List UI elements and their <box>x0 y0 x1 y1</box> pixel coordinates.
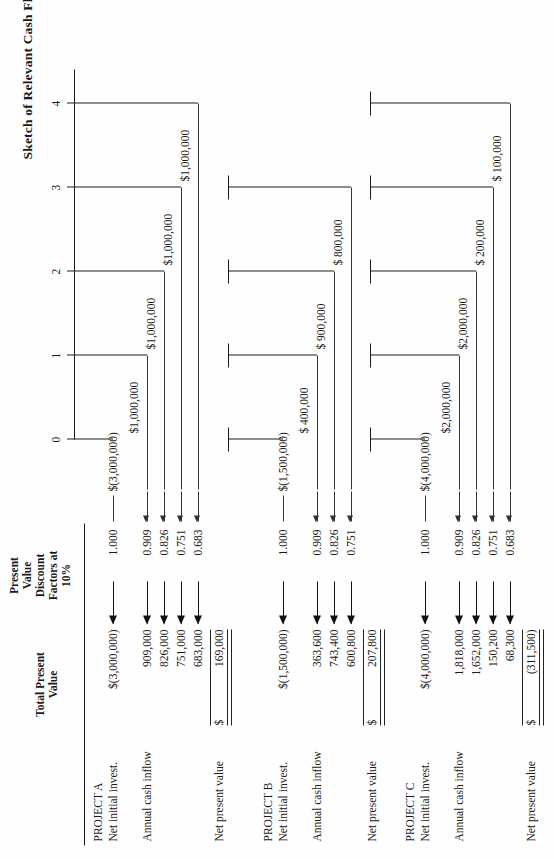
inflow-discount-factor-1-3: 0.751 <box>175 529 187 575</box>
timeline-tick-label-3: 3 <box>50 177 62 197</box>
npv-value-2: 207,800 <box>366 629 378 705</box>
timeline-stub-period-0-3 <box>370 427 371 451</box>
arrow-inflow-cf-to-df-3-4 <box>510 491 511 521</box>
npv-currency-symbol-2: $ <box>366 719 378 725</box>
df-header-line2: Value <box>21 529 34 621</box>
inflow-discount-factor-3-4: 0.683 <box>504 529 516 575</box>
row-label-net-present-value-3: Net present value <box>525 761 537 841</box>
timeline-drop-period-4-3-4 <box>370 102 510 103</box>
sketch-cashflow-label-1-2: $1,000,000 <box>145 297 157 349</box>
inflow-discount-factor-3-3: 0.751 <box>487 529 499 575</box>
initial-total-present-value-1: $(3,000,000) <box>107 629 119 721</box>
subtotal-rule-2 <box>363 629 364 725</box>
df-header-line5: 10% <box>60 529 73 621</box>
timeline-tick-2 <box>67 270 74 271</box>
sketch-cashflow-label-initial-2: $(1,500,000) <box>277 432 289 491</box>
row-label-net-present-value-1: Net present value <box>213 761 225 841</box>
arrow-initial-df-to-tpv-3 <box>425 581 426 623</box>
arrow-inflow-df-to-tpv-1-3 <box>181 581 182 623</box>
inflow-discount-factor-1-1: 0.909 <box>141 529 153 575</box>
tpv-header-line1: Total Present <box>34 629 47 739</box>
sketch-cashflow-label-3-2: $2,000,000 <box>457 297 469 349</box>
connector-inflow-to-timeline-2-2 <box>334 271 335 489</box>
arrow-inflow-df-to-tpv-2-2 <box>334 581 335 623</box>
df-header-line1: Present <box>8 529 21 621</box>
arrow-inflow-df-to-tpv-1-2 <box>164 581 165 623</box>
scanned-worksheet-page: Sketch of Relevant Cash FlowsTotal Prese… <box>0 0 554 859</box>
row-label-net-initial-invest-2: Net initial invest. <box>277 761 289 841</box>
arrow-initial-df-to-tpv-1 <box>113 581 114 623</box>
project-name-2: PROJECT B <box>262 782 274 841</box>
inflow-discount-factor-2-3: 0.751 <box>345 529 357 575</box>
timeline-tick-0 <box>67 438 74 439</box>
timeline-tick-label-2: 2 <box>50 261 62 281</box>
connector-initial-cf-to-df-2 <box>283 495 284 521</box>
inflow-total-present-value-1-3: 751,000 <box>175 629 187 721</box>
npv-currency-symbol-3: $ <box>525 719 537 725</box>
timeline-drop-period-3-2-3 <box>228 186 351 187</box>
inflow-total-present-value-2-2: 743,400 <box>328 629 340 721</box>
connector-inflow-to-timeline-2-1 <box>317 355 318 489</box>
row-label-annual-cash-inflow-1: Annual cash inflow <box>141 751 153 841</box>
connector-inflow-to-timeline-1-2 <box>164 271 165 489</box>
sketch-cashflow-label-2-1: $ 400,000 <box>298 387 310 433</box>
column-header-discount-factors: PresentValueDiscountFactors at10% <box>8 529 73 621</box>
arrow-inflow-cf-to-df-3-1 <box>459 491 460 521</box>
arrow-inflow-df-to-tpv-3-2 <box>476 581 477 623</box>
timeline-drop-period-0-1 <box>74 438 113 439</box>
sketch-cashflow-label-3-3: $ 200,000 <box>474 219 486 265</box>
npv-double-rule-3 <box>539 629 544 725</box>
connector-inflow-to-timeline-3-2 <box>476 271 477 489</box>
timeline-drop-period-1-3-1 <box>370 354 459 355</box>
arrow-inflow-cf-to-df-1-3 <box>181 491 182 521</box>
connector-inflow-to-timeline-1-4 <box>198 103 199 489</box>
arrow-inflow-df-to-tpv-2-1 <box>317 581 318 623</box>
inflow-total-present-value-1-2: 826,000 <box>158 629 170 721</box>
df-header-line4: Factors at <box>47 529 60 621</box>
tpv-header-line2: Value <box>47 629 60 739</box>
arrow-inflow-cf-to-df-1-4 <box>198 491 199 521</box>
arrow-inflow-df-to-tpv-3-4 <box>510 581 511 623</box>
timeline-drop-period-1-2-1 <box>228 354 317 355</box>
arrow-inflow-df-to-tpv-3-3 <box>493 581 494 623</box>
timeline-stub-period-3-2-3 <box>228 175 229 199</box>
connector-inflow-to-timeline-3-4 <box>510 103 511 489</box>
sketch-cashflow-label-initial-1: $(3,000,000) <box>107 432 119 491</box>
npv-currency-symbol-1: $ <box>213 719 225 725</box>
arrow-inflow-cf-to-df-3-3 <box>493 491 494 521</box>
arrow-inflow-cf-to-df-2-1 <box>317 491 318 521</box>
timeline-drop-period-2-1-2 <box>74 270 164 271</box>
project-name-1: PROJECT A <box>92 782 104 841</box>
row-label-net-initial-invest-3: Net initial invest. <box>419 761 431 841</box>
inflow-discount-factor-2-1: 0.909 <box>311 529 323 575</box>
npv-double-rule-2 <box>380 629 385 725</box>
inflow-discount-factor-1-4: 0.683 <box>192 529 204 575</box>
timeline-tick-4 <box>67 102 74 103</box>
subtotal-rule-1 <box>210 629 211 725</box>
inflow-total-present-value-3-3: 150,200 <box>487 629 499 721</box>
inflow-total-present-value-1-1: 909,000 <box>141 629 153 721</box>
rotated-page-wrapper: Sketch of Relevant Cash FlowsTotal Prese… <box>0 0 554 859</box>
inflow-total-present-value-2-1: 363,600 <box>311 629 323 721</box>
arrow-initial-df-to-tpv-2 <box>283 581 284 623</box>
connector-inflow-to-timeline-3-1 <box>459 355 460 489</box>
connector-inflow-to-timeline-3-3 <box>493 187 494 489</box>
row-label-annual-cash-inflow-3: Annual cash inflow <box>453 751 465 841</box>
row-label-annual-cash-inflow-2: Annual cash inflow <box>311 751 323 841</box>
sketch-cashflow-label-3-4: $ 100,000 <box>491 135 503 181</box>
project-name-3: PROJECT C <box>404 782 416 841</box>
npv-value-3: (311,500) <box>525 629 537 705</box>
inflow-discount-factor-3-1: 0.909 <box>453 529 465 575</box>
worksheet-sheet: Sketch of Relevant Cash FlowsTotal Prese… <box>0 0 554 859</box>
timeline-drop-period-0-3 <box>370 438 425 439</box>
sketch-cashflow-label-1-1: $1,000,000 <box>128 381 140 433</box>
inflow-discount-factor-1-2: 0.826 <box>158 529 170 575</box>
column-header-total-present-value: Total PresentValue <box>34 629 60 739</box>
npv-value-1: 169,000 <box>213 629 225 705</box>
timeline-stub-period-1-2-1 <box>228 343 229 367</box>
timeline-stub-period-3-3-3 <box>370 175 371 199</box>
header-divider-rule <box>84 523 85 845</box>
inflow-total-present-value-3-1: 1,818,000 <box>453 629 465 721</box>
timeline-stub-period-4-3-4 <box>370 91 371 115</box>
timeline-drop-period-4-1-4 <box>74 102 198 103</box>
